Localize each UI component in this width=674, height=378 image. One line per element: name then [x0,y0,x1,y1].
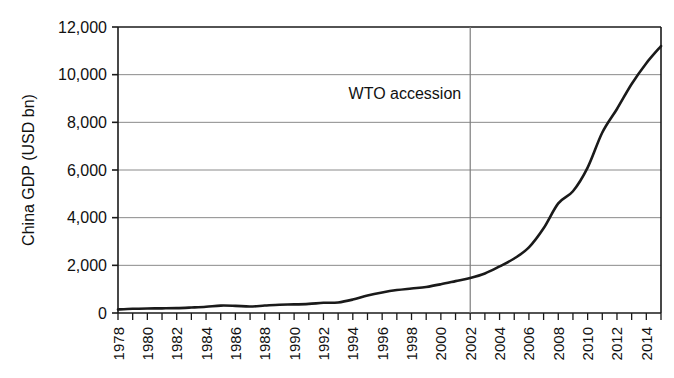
x-tick-label-2010: 2010 [579,327,596,360]
x-tick-label-2006: 2006 [520,327,537,360]
y-tick-label-6000: 6,000 [67,162,107,179]
x-tick-label-1996: 1996 [374,327,391,360]
x-tick-label-1982: 1982 [168,327,185,360]
x-tick-label-1990: 1990 [286,327,303,360]
y-tick-label-4000: 4,000 [67,209,107,226]
y-tick-label-10000: 10,000 [58,66,107,83]
x-tick-label-1998: 1998 [403,327,420,360]
x-tick-label-2002: 2002 [462,327,479,360]
y-tick-label-12000: 12,000 [58,19,107,36]
x-tick-label-1994: 1994 [344,327,361,360]
x-tick-label-1988: 1988 [256,327,273,360]
y-axis-title: China GDP (USD bn) [20,94,37,246]
x-tick-label-2004: 2004 [491,327,508,360]
chart-container: 02,0004,0006,0008,00010,00012,000 197819… [0,0,674,378]
x-tick-label-2012: 2012 [608,327,625,360]
x-tick-label-2000: 2000 [432,327,449,360]
x-tick-label-2008: 2008 [550,327,567,360]
wto-accession-label: WTO accession [349,85,462,102]
x-tick-label-2014: 2014 [638,327,655,360]
x-tick-label-1984: 1984 [198,327,215,360]
y-tick-label-2000: 2,000 [67,257,107,274]
x-tick-label-1980: 1980 [139,327,156,360]
x-tick-label-1992: 1992 [315,327,332,360]
x-tick-label-1986: 1986 [227,327,244,360]
y-tick-label-8000: 8,000 [67,114,107,131]
y-tick-label-0: 0 [98,305,107,322]
x-tick-label-1978: 1978 [110,327,127,360]
china-gdp-line-chart: 02,0004,0006,0008,00010,00012,000 197819… [0,0,674,378]
